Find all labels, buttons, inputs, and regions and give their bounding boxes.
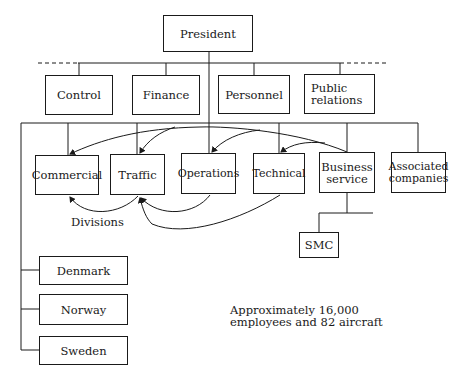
summary-annotation: Approximately 16,000 employees and 82 ai… <box>230 304 383 328</box>
denmark-box: Denmark <box>39 256 128 285</box>
smc-label: SMC <box>305 239 333 251</box>
commercial-label: Commercial <box>32 169 103 181</box>
business-service-box: Business service <box>319 152 375 193</box>
technical-label: Technical <box>252 168 305 180</box>
denmark-label: Denmark <box>57 265 111 277</box>
summary-line-2: employees and 82 aircraft <box>230 316 383 328</box>
personnel-box: Personnel <box>218 75 290 114</box>
personnel-label: Personnel <box>225 89 283 101</box>
traffic-label: Traffic <box>118 169 156 181</box>
president-label: President <box>180 28 236 40</box>
commercial-box: Commercial <box>35 155 99 195</box>
public-relations-label: Public relations <box>311 82 362 106</box>
associated-companies-box: Associated companies <box>391 152 446 193</box>
operations-label: Operations <box>178 168 240 180</box>
technical-box: Technical <box>253 153 305 194</box>
president-box: President <box>163 15 253 52</box>
smc-box: SMC <box>299 232 339 258</box>
norway-label: Norway <box>61 304 107 316</box>
control-box: Control <box>45 75 113 115</box>
finance-box: Finance <box>132 75 200 115</box>
divisions-label: Divisions <box>71 216 124 228</box>
operations-box: Operations <box>181 153 236 194</box>
norway-box: Norway <box>39 294 128 325</box>
public-relations-box: Public relations <box>304 74 375 114</box>
associated-companies-label: Associated companies <box>388 161 448 185</box>
finance-label: Finance <box>143 89 190 101</box>
traffic-box: Traffic <box>110 154 165 195</box>
sweden-box: Sweden <box>39 336 128 365</box>
control-label: Control <box>57 89 101 101</box>
sweden-label: Sweden <box>60 345 106 357</box>
business-service-label: Business service <box>321 161 372 185</box>
